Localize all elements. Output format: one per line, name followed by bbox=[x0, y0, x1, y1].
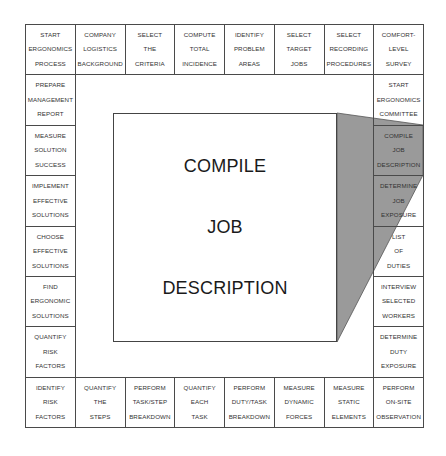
step-top-1: COMPANYLOGISTICSBACKGROUND bbox=[75, 24, 126, 75]
step-top-5: SELECTTARGETJOBS bbox=[274, 24, 325, 75]
step-label-line: EACH bbox=[191, 395, 209, 410]
ergonomics-process-board: STARTERGONOMICSPROCESSCOMPANYLOGISTICSBA… bbox=[0, 0, 446, 456]
center-line-1: COMPILE bbox=[184, 156, 266, 177]
step-bottom-7: PERFORMON-SITEOBSERVATION bbox=[373, 377, 424, 428]
step-label-line: MEASURE bbox=[35, 129, 66, 144]
step-label-line: EFFECTIVE bbox=[33, 194, 68, 209]
step-label-line: START bbox=[40, 28, 60, 43]
step-label-line: DUTY/TASK bbox=[232, 395, 267, 410]
step-label-line: FACTORS bbox=[35, 410, 65, 425]
step-bottom-5: MEASUREDYNAMICFORCES bbox=[274, 377, 325, 428]
step-label-line: FORCES bbox=[286, 410, 312, 425]
step-label-line: CRITERIA bbox=[135, 57, 165, 72]
step-label-line: ERGONOMICS bbox=[28, 42, 72, 57]
step-label-line: DUTY bbox=[390, 345, 407, 360]
step-label-line: PERFORM bbox=[383, 381, 415, 396]
step-label-line: IDENTIFY bbox=[235, 28, 264, 43]
step-left-1: MEASURESOLUTIONSUCCESS bbox=[25, 125, 76, 176]
step-label-line: JOB bbox=[392, 143, 404, 158]
step-label-line: EFFECTIVE bbox=[33, 244, 68, 259]
step-label-line: ELEMENTS bbox=[332, 410, 366, 425]
step-label-line: SOLUTIONS bbox=[32, 259, 69, 274]
step-right-5: DETERMINEDUTYEXPOSURE bbox=[373, 326, 424, 377]
step-label-line: BREAKDOWN bbox=[129, 410, 170, 425]
step-label-line: FACTORS bbox=[35, 359, 65, 374]
step-label-line: TARGET bbox=[287, 42, 312, 57]
step-label-line: DESCRIPTION bbox=[377, 158, 420, 173]
step-label-line: IDENTIFY bbox=[36, 381, 65, 396]
step-label-line: IMPLEMENT bbox=[32, 179, 69, 194]
step-label-line: EXPOSURE bbox=[381, 208, 416, 223]
step-label-line: AREAS bbox=[239, 57, 260, 72]
step-label-line: SELECT bbox=[138, 28, 163, 43]
step-label-line: ERGONOMIC bbox=[31, 294, 71, 309]
step-top-2: SELECTTHECRITERIA bbox=[125, 24, 176, 75]
step-label-line: THE bbox=[94, 395, 107, 410]
step-top-3: COMPUTETOTALINCIDENCE bbox=[174, 24, 225, 75]
step-label-line: PROBLEM bbox=[234, 42, 265, 57]
step-bottom-1: QUANTIFYTHESTEPS bbox=[75, 377, 126, 428]
step-label-line: JOB bbox=[392, 194, 404, 209]
step-label-line: START bbox=[389, 78, 409, 93]
step-label-line: QUANTIFY bbox=[84, 381, 116, 396]
step-label-line: RISK bbox=[43, 395, 58, 410]
step-label-line: RECORDING bbox=[330, 42, 369, 57]
step-label-line: CHOOSE bbox=[37, 230, 64, 245]
step-label-line: MEASURE bbox=[283, 381, 314, 396]
step-right-1: COMPILEJOBDESCRIPTION bbox=[373, 125, 424, 176]
step-top-0: STARTERGONOMICSPROCESS bbox=[25, 24, 76, 75]
step-left-3: CHOOSEEFFECTIVESOLUTIONS bbox=[25, 226, 76, 277]
step-top-6: SELECTRECORDINGPROCEDURES bbox=[324, 24, 375, 75]
step-top-4: IDENTIFYPROBLEMAREAS bbox=[224, 24, 275, 75]
step-right-4: INTERVIEWSELECTEDWORKERS bbox=[373, 276, 424, 327]
step-label-line: PERFORM bbox=[134, 381, 166, 396]
step-label-line: SUCCESS bbox=[35, 158, 66, 173]
step-label-line: DUTIES bbox=[387, 259, 410, 274]
step-bottom-3: QUANTIFYEACHTASK bbox=[174, 377, 225, 428]
step-label-line: QUANTIFY bbox=[34, 330, 66, 345]
step-label-line: PROCEDURES bbox=[327, 57, 372, 72]
step-label-line: SOLUTION bbox=[34, 143, 66, 158]
step-label-line: DYNAMIC bbox=[285, 395, 314, 410]
step-label-line: MEASURE bbox=[333, 381, 364, 396]
step-label-line: COMPUTE bbox=[184, 28, 216, 43]
step-label-line: BREAKDOWN bbox=[229, 410, 270, 425]
step-label-line: LOGISTICS bbox=[83, 42, 117, 57]
step-label-line: BACKGROUND bbox=[77, 57, 122, 72]
step-label-line: JOBS bbox=[291, 57, 308, 72]
step-label-line: STEPS bbox=[90, 410, 111, 425]
step-label-line: COMPANY bbox=[84, 28, 116, 43]
step-label-line: PROCESS bbox=[35, 57, 66, 72]
step-left-0: PREPAREMANAGEMENTREPORT bbox=[25, 74, 76, 125]
step-bottom-4: PERFORMDUTY/TASKBREAKDOWN bbox=[224, 377, 275, 428]
step-right-0: STARTERGONOMICSCOMMITTEE bbox=[373, 74, 424, 125]
step-label-line: SELECT bbox=[287, 28, 312, 43]
step-label-line: FIND bbox=[43, 280, 58, 295]
step-label-line: SOLUTIONS bbox=[32, 309, 69, 324]
step-bottom-0: IDENTIFYRISKFACTORS bbox=[25, 377, 76, 428]
step-label-line: COMPILE bbox=[384, 129, 413, 144]
step-right-3: LISTOFDUTIES bbox=[373, 226, 424, 277]
step-left-5: QUANTIFYRISKFACTORS bbox=[25, 326, 76, 377]
step-label-line: OF bbox=[394, 244, 403, 259]
step-label-line: SOLUTIONS bbox=[32, 208, 69, 223]
step-label-line: WORKERS bbox=[382, 309, 415, 324]
step-label-line: THE bbox=[144, 42, 157, 57]
step-bottom-2: PERFORMTASK/STEPBREAKDOWN bbox=[125, 377, 176, 428]
step-label-line: LEVEL bbox=[389, 42, 409, 57]
step-right-2: DETERMINEJOBEXPOSURE bbox=[373, 175, 424, 226]
step-label-line: MANAGEMENT bbox=[28, 93, 73, 108]
step-label-line: ON-SITE bbox=[386, 395, 412, 410]
step-label-line: TASK/STEP bbox=[133, 395, 167, 410]
step-label-line: INCIDENCE bbox=[182, 57, 217, 72]
step-label-line: QUANTIFY bbox=[184, 381, 216, 396]
step-label-line: OBSERVATION bbox=[376, 410, 421, 425]
step-label-line: DETERMINE bbox=[380, 330, 417, 345]
step-label-line: DETERMINE bbox=[380, 179, 417, 194]
step-label-line: RISK bbox=[43, 345, 58, 360]
center-line-3: DESCRIPTION bbox=[162, 278, 287, 299]
step-label-line: EXPOSURE bbox=[381, 359, 416, 374]
step-label-line: PERFORM bbox=[234, 381, 266, 396]
step-left-2: IMPLEMENTEFFECTIVESOLUTIONS bbox=[25, 175, 76, 226]
step-label-line: ERGONOMICS bbox=[377, 93, 421, 108]
